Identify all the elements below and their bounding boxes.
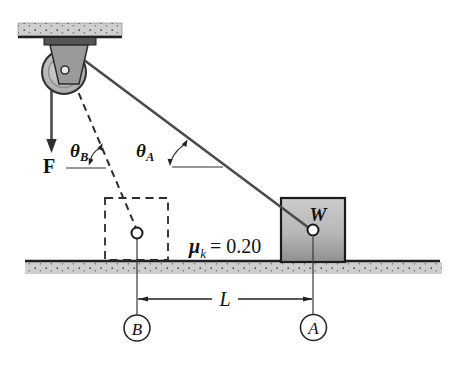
position-marker-b: B [124,315,150,341]
dimension-arrowhead-left [139,297,149,302]
force-label: F [43,155,55,177]
ceiling-surface [18,23,122,37]
position-marker-a: A [301,315,327,341]
angle-a-arc-arrowhead-bottom [168,159,173,166]
floor-hatch-band [25,262,442,274]
angle-a-label: θA [136,140,154,164]
pulley-assembly [42,38,96,95]
hook-a [308,225,319,236]
friction-coefficient-label: μk= 0.20 [188,235,261,261]
rope-line [80,57,313,231]
ceiling-hatch-band [18,23,122,36]
dimension-arrowhead-right [303,297,313,302]
angle-b-label: θB [70,140,88,164]
angle-a-arc [172,145,185,160]
friction-value: = 0.20 [210,235,261,257]
marker-a-label: A [307,319,319,338]
angle-b-symbol: θ [70,140,80,161]
dimension-l: L [138,288,313,310]
angle-a-subscript: A [145,150,154,164]
mount-plate [44,38,96,46]
force-arrowhead [46,139,56,153]
friction-mu-subscript: k [200,246,206,261]
angle-b-subscript: B [79,150,88,164]
pulley-axle [61,66,69,74]
applied-force: F [43,84,57,177]
distance-label: L [218,288,230,310]
angle-a-symbol: θ [136,140,146,161]
angle-b-arc-arrowhead-bottom [89,158,94,165]
mechanics-diagram: W F θB θA μk= 0.20 [0,0,459,367]
mechanics-diagram-page: W F θB θA μk= 0.20 [0,0,459,367]
block-weight-label: W [310,204,328,225]
angle-b-arc [91,148,101,161]
floor-surface [25,261,442,274]
hook-b [132,228,143,239]
angle-theta-b: θB [66,140,106,168]
friction-mu-symbol: μ [188,235,200,258]
marker-b-label: B [132,320,143,339]
